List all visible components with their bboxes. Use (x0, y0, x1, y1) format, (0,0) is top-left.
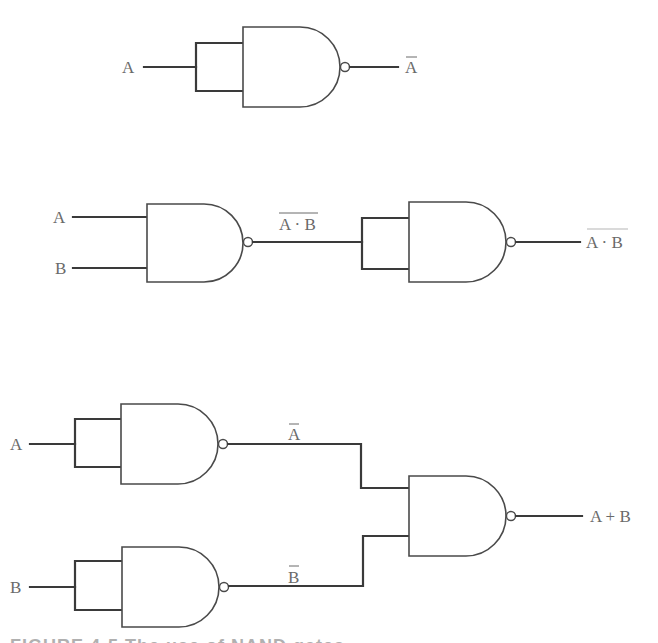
tied-inputs-bracket (196, 43, 243, 91)
nand-gate-icon (409, 202, 506, 282)
output-label-and: A · B (586, 233, 623, 252)
inversion-bubble-icon (220, 583, 229, 592)
nand-gate-icon (409, 476, 506, 556)
inversion-bubble-icon (507, 512, 516, 521)
intermediate-label-not-a: A (288, 425, 301, 444)
output-label-not-a: A (405, 58, 418, 77)
inversion-bubble-icon (219, 440, 228, 449)
intermediate-label-nand: A · B (279, 215, 316, 234)
figure-caption: FIGURE 4-5 The use of NAND gates (10, 633, 410, 643)
nand-gate-icon (147, 204, 243, 282)
circuit-and: A B A · B A · B (53, 202, 628, 282)
input-label-a: A (122, 58, 135, 77)
tied-inputs-bracket (75, 561, 122, 610)
circuit-not: A A (122, 27, 418, 107)
input-label-a: A (53, 208, 66, 227)
input-label-b: B (10, 578, 21, 597)
nand-gate-icon (121, 404, 218, 484)
output-label-or: A + B (590, 507, 631, 526)
nand-gate-icon (243, 27, 340, 107)
intermediate-label-not-b: B (288, 568, 299, 587)
tied-inputs-bracket (75, 419, 121, 467)
inversion-bubble-icon (507, 238, 516, 247)
input-label-a: A (10, 435, 23, 454)
circuit-or: A A B B A + B (10, 404, 631, 627)
nand-logic-diagram: A A A B A · B A · B A A (0, 0, 658, 643)
not-b-wire (229, 536, 409, 586)
input-label-b: B (55, 259, 66, 278)
tied-inputs-bracket (362, 218, 409, 269)
inversion-bubble-icon (244, 238, 253, 247)
inversion-bubble-icon (341, 63, 350, 72)
not-a-wire (228, 444, 409, 488)
nand-gate-icon (122, 547, 219, 627)
